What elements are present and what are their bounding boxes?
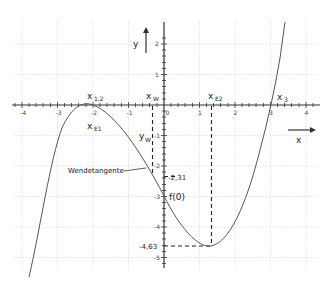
y-axis-arrow [143,27,149,53]
svg-text:x: x [277,92,283,102]
svg-text:1,2: 1,2 [94,95,104,102]
svg-text:1: 1 [198,109,202,116]
svg-text:1: 1 [155,71,159,78]
svg-text:-4: -4 [20,109,26,116]
svg-text:x: x [146,91,152,101]
y-tick-labels: 2 1 -1 -2 -3 -4 -5 [154,40,160,261]
svg-text:3: 3 [284,96,288,103]
function-graph: -4 -3 -2 -1 0 1 2 3 4 2 1 -1 -2 -3 -4 -5… [0,0,336,292]
function-curve [29,22,285,277]
label-xW: x W [146,91,159,102]
f0-label: f(0) [169,192,185,202]
svg-text:0: 0 [166,109,170,116]
svg-text:x: x [208,91,214,101]
svg-text:-1: -1 [127,109,133,116]
svg-text:-2: -2 [91,109,97,116]
svg-text:x: x [87,91,93,101]
grid [14,20,318,270]
label-xE2: x E2 [208,91,223,102]
svg-text:-4: -4 [154,223,160,230]
svg-text:2: 2 [234,109,238,116]
x-axis-label: x [296,135,302,145]
svg-text:E2: E2 [215,95,223,102]
svg-text:x: x [87,121,93,131]
label-yW: y W [139,131,151,143]
svg-text:-3: -3 [56,109,62,116]
wendetangente-pointer [124,168,146,171]
svg-text:W: W [153,95,159,102]
svg-text:4: 4 [305,109,309,116]
value-yw-label: -2,31 [168,174,186,182]
label-xE1: x E1 [87,121,102,132]
label-x3: x 3 [277,92,288,103]
label-x12: x 1,2 [87,91,104,102]
svg-text:-3: -3 [154,193,160,200]
y-axis-label: y [133,39,139,49]
wendetangente-label: Wendetangente [68,167,124,175]
value-ye2-label: -4,63 [139,243,157,251]
svg-text:-1: -1 [154,132,160,139]
svg-text:E1: E1 [94,125,102,132]
svg-text:2: 2 [155,40,159,47]
svg-text:W: W [145,136,151,143]
svg-text:-2: -2 [154,162,160,169]
svg-text:-5: -5 [154,254,160,261]
x-axis-arrow [288,127,316,133]
